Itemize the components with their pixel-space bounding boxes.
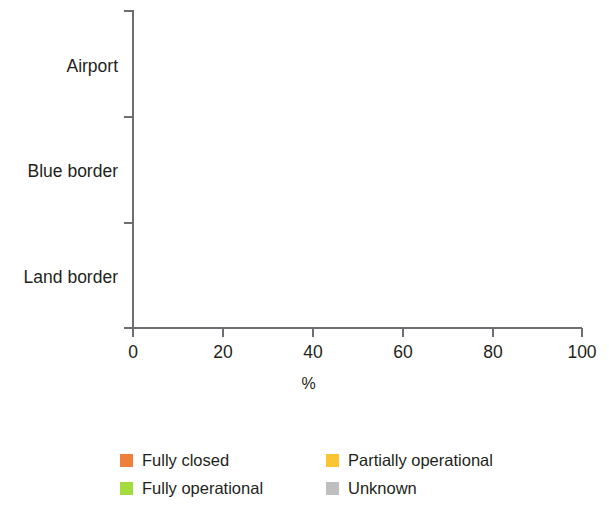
x-axis-tick-80: [492, 328, 494, 337]
x-axis-label-80: 80: [483, 342, 502, 363]
plot-area: [133, 10, 582, 328]
legend-row-1: Fully closed Partially operational: [120, 446, 580, 474]
legend-item-fully-closed[interactable]: Fully closed: [120, 446, 326, 474]
legend-item-partially-operational[interactable]: Partially operational: [326, 446, 576, 474]
legend-item-unknown[interactable]: Unknown: [326, 474, 576, 502]
x-axis-title: %: [0, 375, 609, 393]
y-axis-tick: [124, 10, 133, 12]
legend-swatch-icon: [326, 482, 339, 495]
category-label-airport: Airport: [0, 56, 118, 77]
x-axis-label-0: 0: [128, 342, 138, 363]
x-axis-label-60: 60: [393, 342, 412, 363]
legend-label-fully-closed: Fully closed: [142, 452, 229, 469]
stacked-bar-chart: Airport Blue border Land border 0 20 40 …: [0, 0, 609, 507]
legend-swatch-icon: [120, 482, 133, 495]
legend-item-fully-operational[interactable]: Fully operational: [120, 474, 326, 502]
legend-label-fully-operational: Fully operational: [142, 480, 263, 497]
y-axis-tick: [124, 116, 133, 118]
chart-legend: Fully closed Partially operational Fully…: [120, 446, 580, 502]
y-axis-tick: [124, 222, 133, 224]
legend-label-partially-operational: Partially operational: [348, 452, 493, 469]
bar-airport[interactable]: [133, 45, 582, 90]
x-axis-tick-100: [581, 328, 583, 337]
x-axis-tick-40: [312, 328, 314, 337]
x-axis-label-20: 20: [213, 342, 232, 363]
category-label-blue-border: Blue border: [0, 161, 118, 182]
x-axis-title-text: %: [301, 375, 315, 392]
bar-land-border[interactable]: [133, 256, 582, 301]
x-axis-tick-60: [402, 328, 404, 337]
legend-swatch-icon: [120, 454, 133, 467]
category-label-land-border: Land border: [0, 267, 118, 288]
legend-label-unknown: Unknown: [348, 480, 417, 497]
x-axis-tick-0: [132, 328, 134, 337]
bar-blue-border[interactable]: [133, 150, 582, 195]
x-axis-label-40: 40: [303, 342, 322, 363]
x-axis-label-100: 100: [567, 342, 596, 363]
x-axis-tick-20: [222, 328, 224, 337]
legend-row-2: Fully operational Unknown: [120, 474, 580, 502]
legend-swatch-icon: [326, 454, 339, 467]
